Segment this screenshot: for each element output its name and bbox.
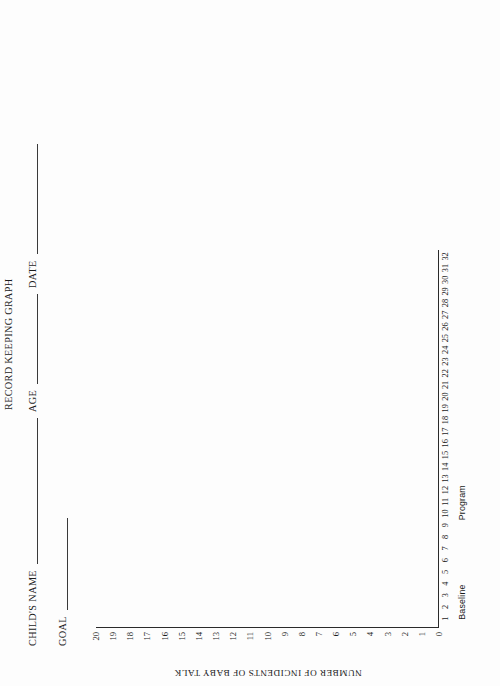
x-axis-tick-label: 7 [438,546,450,550]
phase-label-program: Program [457,485,467,520]
y-axis-tick-label: 6 [332,627,341,654]
y-axis-tick-label: 12 [229,627,238,654]
x-axis-tick-label: 2 [438,605,450,609]
y-axis-tick-label: 13 [212,627,221,654]
x-axis-tick-label: 17 [438,427,450,435]
x-axis-tick-label: 22 [438,369,450,377]
y-axis-tick-label: 19 [109,627,118,654]
x-axis-tick-label: 24 [438,346,450,354]
x-axis-tick-label: 10 [438,509,450,517]
x-axis-tick-label: 3 [438,593,450,597]
x-axis-tick-label: 4 [438,581,450,585]
x-axis-tick-label: 12 [438,486,450,494]
chart-area: NUMBER OF INCIDENTS OF BABY TALK 0123456… [0,0,500,686]
y-axis-tick-label: 14 [195,627,204,654]
y-axis-tick-label: 7 [315,627,324,654]
phase-label-baseline: Baseline [457,584,467,619]
y-axis-tick-label: 11 [246,627,255,654]
x-axis-tick-label: 18 [438,416,450,424]
y-axis-tick-label: 10 [263,627,272,654]
record-keeping-graph-sheet: RECORD KEEPING GRAPH CHILD'S NAME AGE DA… [0,0,500,686]
y-axis-tick-label: 0 [435,627,444,654]
x-axis-tick-label: 1 [438,617,450,621]
y-axis-tick-label: 18 [126,627,135,654]
y-axis-tick-label: 8 [298,627,307,654]
x-axis-tick-label: 31 [438,264,450,272]
y-axis-title-text: NUMBER OF INCIDENTS OF BABY TALK [174,668,362,678]
y-axis-tick-label: 2 [400,627,409,654]
x-axis-tick-label: 30 [438,276,450,284]
y-axis-tick-label: 3 [383,627,392,654]
x-axis-tick-label: 21 [438,381,450,389]
plot-area: 0123456789101112131415161718192012345678… [96,250,439,628]
y-axis-tick-label: 9 [280,627,289,654]
x-axis-tick-label: 13 [438,474,450,482]
x-axis-tick-label: 29 [438,287,450,295]
y-axis-tick-label: 4 [366,627,375,654]
x-axis-tick-label: 19 [438,404,450,412]
x-axis-tick-label: 32 [438,252,450,260]
x-axis-tick-label: 15 [438,451,450,459]
x-axis-tick-label: 28 [438,299,450,307]
y-axis-title: NUMBER OF INCIDENTS OF BABY TALK [96,666,439,680]
x-axis-tick-label: 14 [438,463,450,471]
x-axis-tick-label: 11 [438,498,450,506]
y-axis-tick-label: 1 [418,627,427,654]
x-axis-tick-label: 26 [438,322,450,330]
x-axis-tick-label: 25 [438,334,450,342]
x-axis-tick-label: 27 [438,311,450,319]
x-axis-tick-label: 8 [438,535,450,539]
y-axis-tick-label: 17 [143,627,152,654]
x-axis-tick-label: 16 [438,439,450,447]
y-axis-tick-label: 15 [177,627,186,654]
y-axis-tick-label: 20 [92,627,101,654]
x-axis-tick-label: 23 [438,357,450,365]
x-axis-tick-label: 5 [438,570,450,574]
x-axis-tick-label: 6 [438,558,450,562]
y-axis-tick-label: 16 [160,627,169,654]
y-axis-tick-label: 5 [349,627,358,654]
x-axis-tick-label: 9 [438,523,450,527]
x-axis-tick-label: 20 [438,392,450,400]
